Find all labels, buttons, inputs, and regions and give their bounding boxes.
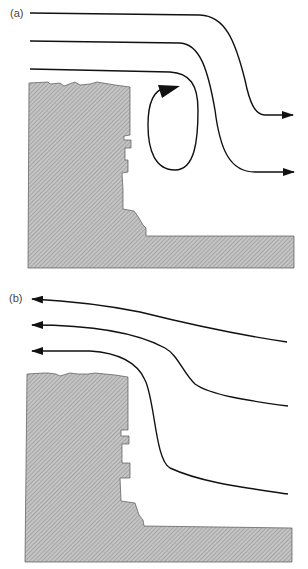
streamline-b1 (32, 299, 287, 342)
eddy-arrow-icon (158, 85, 180, 98)
block-a (28, 82, 294, 268)
diagram-canvas (0, 0, 308, 569)
